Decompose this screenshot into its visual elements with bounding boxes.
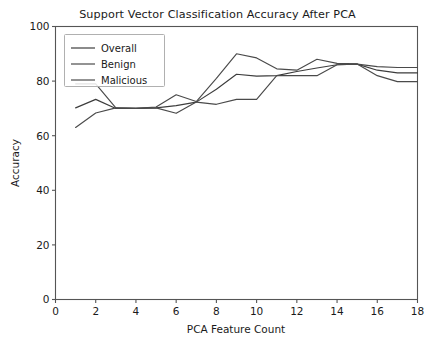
legend-label-benign: Benign (101, 59, 136, 70)
x-tick-label: 16 (371, 305, 385, 317)
legend-label-malicious: Malicious (101, 75, 147, 86)
legend-label-overall: Overall (101, 43, 137, 54)
x-tick-label: 2 (92, 305, 99, 317)
x-tick-label: 4 (133, 305, 140, 317)
y-tick-label: 60 (36, 130, 49, 142)
chart-figure: Support Vector Classification Accuracy A… (0, 0, 435, 350)
y-axis-ticks: 020406080100 (29, 20, 55, 305)
y-tick-label: 0 (43, 293, 50, 305)
x-axis-ticks: 024681012141618 (52, 300, 424, 317)
x-axis-label: PCA Feature Count (187, 323, 285, 335)
x-tick-label: 6 (173, 305, 180, 317)
x-tick-label: 10 (250, 305, 263, 317)
y-tick-label: 80 (36, 75, 49, 87)
x-tick-label: 0 (52, 305, 59, 317)
chart-legend[interactable]: OverallBenignMalicious (65, 35, 165, 87)
y-axis-label: Accuracy (9, 139, 21, 187)
x-tick-label: 14 (330, 305, 344, 317)
x-tick-label: 12 (290, 305, 303, 317)
y-tick-label: 40 (36, 184, 49, 196)
line-chart-plot: 024681012141618 020406080100 PCA Feature… (0, 0, 435, 350)
y-tick-label: 20 (36, 239, 49, 251)
x-tick-label: 18 (411, 305, 424, 317)
y-tick-label: 100 (29, 20, 49, 32)
x-tick-label: 8 (213, 305, 220, 317)
